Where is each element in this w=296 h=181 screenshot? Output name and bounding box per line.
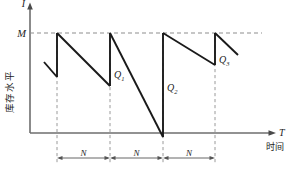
segment-decline-1 <box>57 33 110 86</box>
period-measure-1: N <box>57 148 110 160</box>
period-measure-1-arrow-right <box>105 156 111 160</box>
max-level-label: M <box>16 28 27 39</box>
segment-decline-2 <box>110 33 163 137</box>
period-measure-2-label: N <box>132 148 140 158</box>
period-measure-3: N <box>163 148 215 160</box>
x-axis-symbol: T <box>279 127 286 138</box>
label-q2-subscript: 2 <box>174 88 178 95</box>
x-axis-label: 时间 <box>266 141 284 152</box>
x-axis-arrowhead <box>269 130 277 136</box>
period-measure-2: N <box>110 148 163 160</box>
chart-canvas: I T 时间 库存水平 M <box>0 0 296 181</box>
max-level-group: M <box>16 28 262 39</box>
inventory-sawtooth-curve <box>44 33 238 137</box>
label-q2: Q2 <box>167 82 178 95</box>
y-axis-label: 库存水平 <box>4 71 15 113</box>
segment-trailing-decline <box>215 33 238 55</box>
period-measure-3-label: N <box>185 148 193 158</box>
period-measure-1-arrow-left <box>57 156 63 160</box>
y-axis-symbol: I <box>21 0 26 9</box>
period-measure-1-label: N <box>79 148 87 158</box>
period-measure-3-arrow-right <box>210 156 216 160</box>
y-axis-arrowhead <box>27 3 33 10</box>
label-q3-subscript: 3 <box>225 60 230 67</box>
label-q3: Q3 <box>219 54 230 67</box>
period-measure-2-arrow-left <box>110 156 116 160</box>
period-measure-group: N N N <box>57 148 215 160</box>
x-axis-group: T 时间 <box>30 127 286 152</box>
inventory-chart-figure: I T 时间 库存水平 M <box>0 0 296 181</box>
y-axis-group: I <box>21 0 33 133</box>
period-measure-2-arrow-right <box>158 156 164 160</box>
label-q1: Q1 <box>114 69 124 82</box>
segment-decline-3 <box>163 33 215 65</box>
review-gridlines-group <box>57 33 215 163</box>
label-q1-subscript: 1 <box>121 75 124 82</box>
segment-initial-decline <box>44 62 57 77</box>
period-measure-3-arrow-left <box>163 156 169 160</box>
